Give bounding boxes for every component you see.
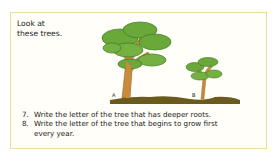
question-7: 7. Write the letter of the tree that has… bbox=[22, 110, 218, 119]
question-8: 8. Write the letter of the tree that beg… bbox=[22, 119, 218, 128]
trees-illustration: A B bbox=[100, 16, 250, 108]
question-number: 8. bbox=[22, 119, 34, 128]
tree-a bbox=[102, 22, 171, 98]
intro-line-1: Look at bbox=[17, 19, 62, 29]
question-8-continuation: every year. bbox=[22, 129, 218, 138]
tree-a-label: A bbox=[112, 92, 116, 98]
question-text: Write the letter of the tree that begins… bbox=[34, 119, 218, 128]
question-number: 7. bbox=[22, 110, 34, 119]
tree-b-label: B bbox=[192, 92, 196, 98]
intro-text: Look at these trees. bbox=[17, 19, 62, 38]
questions-list: 7. Write the letter of the tree that has… bbox=[22, 110, 218, 138]
intro-line-2: these trees. bbox=[17, 29, 62, 39]
question-text: Write the letter of the tree that has de… bbox=[34, 110, 211, 119]
